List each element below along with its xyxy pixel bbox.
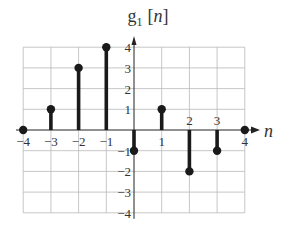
y-tick-label: −3 bbox=[117, 185, 131, 200]
stem-marker bbox=[241, 126, 249, 134]
y-tick-label: 3 bbox=[125, 61, 132, 76]
stem-marker bbox=[74, 64, 82, 72]
x-tick-label: 3 bbox=[214, 113, 221, 128]
y-tick-label: −2 bbox=[117, 164, 131, 179]
x-tick-label: −2 bbox=[72, 134, 86, 149]
y-tick-label: 4 bbox=[125, 40, 132, 55]
chart-title: g1[n] bbox=[128, 6, 169, 29]
title-rbracket: ] bbox=[163, 6, 169, 26]
y-axis-arrow-icon bbox=[132, 36, 137, 45]
stem-marker bbox=[102, 43, 110, 51]
stem-marker bbox=[130, 147, 138, 155]
x-tick-label: −4 bbox=[16, 134, 30, 149]
stem-marker bbox=[158, 105, 166, 113]
title-arg: n bbox=[154, 6, 163, 26]
x-tick-label: 2 bbox=[186, 113, 193, 128]
y-tick-label: 1 bbox=[125, 102, 132, 117]
x-tick-label: −1 bbox=[99, 134, 113, 149]
stem-marker bbox=[185, 167, 193, 175]
y-tick-label: −1 bbox=[117, 144, 131, 159]
title-subscript: 1 bbox=[137, 15, 143, 29]
stem-marker bbox=[19, 126, 27, 134]
title-base: g bbox=[128, 6, 137, 26]
x-axis-arrow-icon bbox=[251, 127, 260, 134]
x-tick-label: 1 bbox=[158, 134, 165, 149]
x-tick-label: −3 bbox=[44, 134, 58, 149]
stem-marker bbox=[213, 147, 221, 155]
stem-plot: −4−3−2−112344321−1−2−3−4 g1[n] n bbox=[0, 0, 289, 236]
stem-marker bbox=[47, 105, 55, 113]
x-axis-label: n bbox=[264, 121, 273, 141]
x-tick-label: 4 bbox=[242, 134, 249, 149]
y-tick-label: 2 bbox=[125, 82, 132, 97]
y-tick-label: −4 bbox=[117, 206, 131, 221]
